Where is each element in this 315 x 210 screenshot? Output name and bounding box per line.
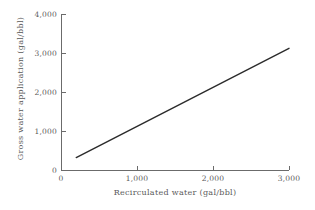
data-series-line: [76, 48, 289, 157]
plot-area: [0, 0, 315, 210]
chart-figure: 4,000 3,000 2,000 1,000 0 0 1,000 2,000 …: [0, 0, 315, 210]
